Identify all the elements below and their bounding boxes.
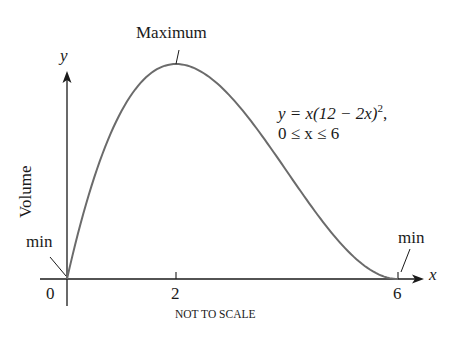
maximum-leader-line <box>176 50 179 64</box>
min-right-label: min <box>398 228 424 248</box>
tick-label-2: 2 <box>171 284 180 304</box>
min-right-leader-line <box>401 249 410 272</box>
chart-canvas <box>0 0 456 340</box>
equation-label: y = x(12 − 2x)2, 0 ≤ x ≤ 6 <box>278 98 387 144</box>
min-left-leader-line <box>50 257 66 276</box>
equation-comma: , <box>383 104 387 123</box>
y-axis-variable-label: y <box>60 46 68 66</box>
function-curve <box>67 64 398 279</box>
equation-line-1: y = x(12 − 2x) <box>278 104 377 123</box>
not-to-scale-note: NOT TO SCALE <box>175 308 256 320</box>
tick-label-0: 0 <box>46 284 55 304</box>
maximum-label: Maximum <box>136 23 207 43</box>
x-axis-variable-label: x <box>429 265 437 285</box>
equation-line-2: 0 ≤ x ≤ 6 <box>278 124 387 144</box>
tick-label-6: 6 <box>393 284 402 304</box>
min-left-label: min <box>26 232 52 252</box>
y-axis-title: Volume <box>16 165 36 218</box>
